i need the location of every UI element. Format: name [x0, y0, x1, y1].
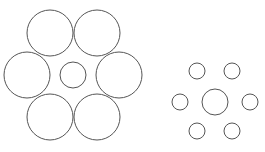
- ebbinghaus-diagram: [0, 0, 265, 152]
- surround-circle: [224, 123, 240, 139]
- surround-circle: [189, 63, 205, 79]
- surround-circle: [224, 63, 240, 79]
- center-circle: [202, 89, 228, 115]
- large-surround-group: [4, 10, 142, 140]
- surround-circle: [96, 52, 142, 98]
- small-surround-group: [172, 63, 258, 139]
- surround-circle: [189, 123, 205, 139]
- surround-circle: [172, 94, 188, 110]
- surround-circle: [74, 94, 120, 140]
- surround-circle: [4, 52, 50, 98]
- center-circle: [60, 62, 86, 88]
- surround-circle: [74, 10, 120, 56]
- surround-circle: [27, 10, 73, 56]
- surround-circle: [242, 94, 258, 110]
- surround-circle: [27, 94, 73, 140]
